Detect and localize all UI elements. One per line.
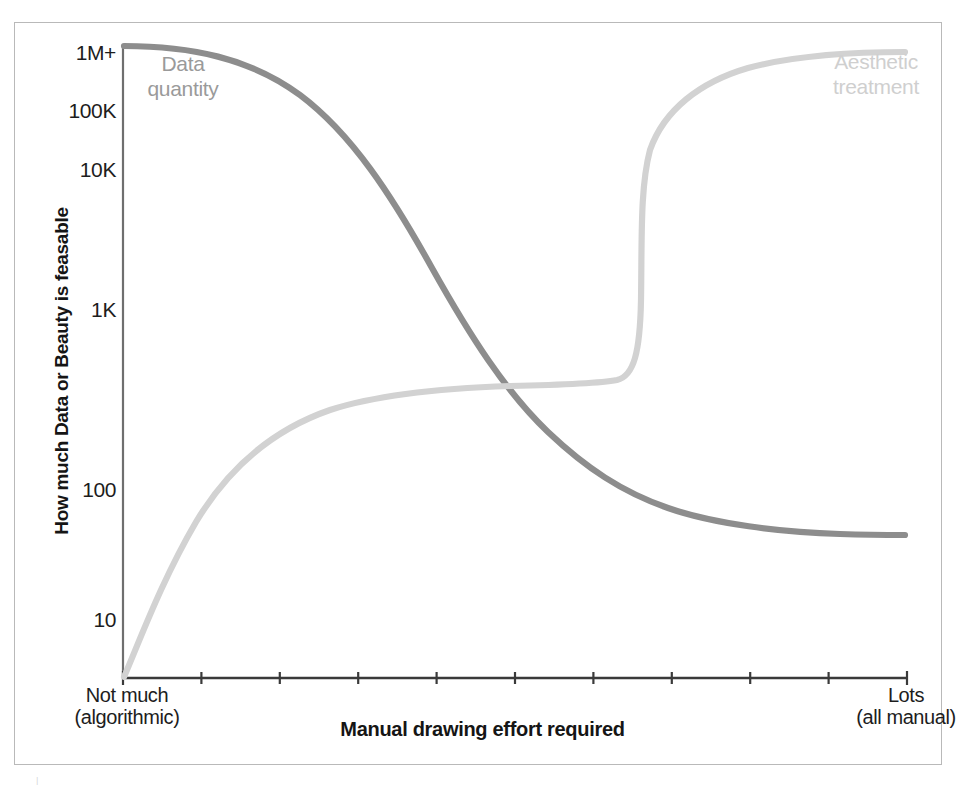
page-bottom-caption: |	[36, 775, 936, 785]
series-label-aesthetic-treatment-line2: treatment	[806, 75, 946, 100]
y-tick-label-10k: 10K	[40, 158, 116, 182]
series-label-aesthetic-treatment-line1: Aesthetic	[806, 50, 946, 75]
series-line-aesthetic-treatment	[124, 52, 905, 677]
y-tick-label-10: 10	[40, 608, 116, 632]
x-axis-end-label-line2: (all manual)	[800, 706, 965, 728]
y-tick-label-1m: 1M+	[40, 41, 116, 65]
series-label-data-quantity-line1: Data	[118, 52, 248, 77]
figure-page: 1M+ 100K 10K 1K 100 10 How much Data or …	[0, 0, 965, 785]
y-axis-title: How much Data or Beauty is feasable	[51, 191, 73, 551]
x-axis-end-label-line1: Lots	[800, 684, 965, 706]
chart-canvas	[0, 0, 965, 785]
x-axis-start-label-line1: Not much	[22, 684, 232, 706]
series-label-data-quantity: Data quantity	[118, 52, 248, 102]
x-axis-start-label: Not much (algorithmic)	[22, 684, 232, 729]
x-axis-end-label: Lots (all manual)	[800, 684, 965, 729]
x-axis-start-label-line2: (algorithmic)	[22, 706, 232, 728]
y-tick-label-100k: 100K	[40, 99, 116, 123]
series-label-aesthetic-treatment: Aesthetic treatment	[806, 50, 946, 100]
series-label-data-quantity-line2: quantity	[118, 77, 248, 102]
